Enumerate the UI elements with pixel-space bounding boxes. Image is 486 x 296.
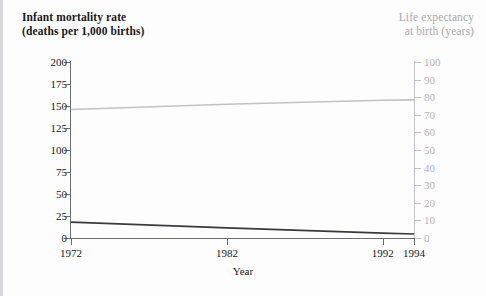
x-axis-label: Year [0, 265, 486, 277]
right-tick-label: 40 [424, 162, 435, 174]
left-tick-label: 0 [62, 232, 68, 244]
left-tick-label: 150 [51, 100, 68, 112]
x-tick-label: 1972 [60, 247, 82, 259]
x-tick-label: 1994 [403, 247, 425, 259]
x-tick-mark [71, 239, 72, 245]
right-tick-label: 60 [424, 126, 435, 138]
x-tick-mark [227, 239, 228, 245]
infant-mortality-line [71, 222, 414, 234]
right-tick-label: 90 [424, 74, 435, 86]
x-axis-spine [70, 238, 415, 239]
right-tick-mark [415, 80, 421, 81]
right-tick-label: 70 [424, 109, 435, 121]
left-tick-label: 100 [51, 144, 68, 156]
right-tick-label: 10 [424, 214, 435, 226]
right-tick-mark [415, 220, 421, 221]
right-tick-mark [415, 115, 421, 116]
right-tick-label: 30 [424, 179, 435, 191]
right-tick-mark [415, 238, 421, 239]
right-tick-mark [415, 97, 421, 98]
right-tick-label: 20 [424, 197, 435, 209]
right-axis-title: Life expectancy at birth (years) [399, 10, 474, 38]
left-edge-rule [0, 0, 3, 296]
left-tick-label: 175 [51, 78, 68, 90]
right-tick-mark [415, 150, 421, 151]
left-tick-label: 125 [51, 122, 68, 134]
right-tick-mark [415, 168, 421, 169]
left-axis-spine [70, 61, 71, 239]
x-tick-mark [414, 239, 415, 245]
left-axis-title: Infant mortality rate (deaths per 1,000 … [22, 10, 144, 38]
right-tick-mark [415, 185, 421, 186]
x-tick-label: 1982 [216, 247, 238, 259]
left-tick-label: 75 [56, 166, 67, 178]
left-tick-label: 50 [56, 188, 67, 200]
right-tick-mark [415, 203, 421, 204]
x-tick-label: 1992 [372, 247, 394, 259]
right-tick-label: 100 [424, 56, 441, 68]
left-tick-label: 200 [51, 56, 68, 68]
right-tick-mark [415, 62, 421, 63]
left-tick-label: 25 [56, 210, 67, 222]
right-tick-label: 0 [424, 232, 430, 244]
chart-figure: Infant mortality rate (deaths per 1,000 … [0, 0, 486, 296]
right-tick-label: 80 [424, 91, 435, 103]
right-tick-label: 50 [424, 144, 435, 156]
life-expectancy-line [71, 100, 414, 110]
right-tick-mark [415, 132, 421, 133]
x-tick-mark [383, 239, 384, 245]
